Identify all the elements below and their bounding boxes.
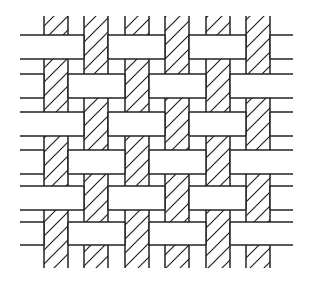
weft-segment xyxy=(149,150,206,174)
weave-pattern-svg xyxy=(0,0,310,284)
weft-segment xyxy=(68,150,125,174)
weft-segment xyxy=(230,150,293,174)
weft-segment xyxy=(189,35,246,59)
weft-segment xyxy=(20,74,44,98)
weft-segment xyxy=(270,35,293,59)
weft-segment xyxy=(108,35,165,59)
weft-segment xyxy=(68,74,125,98)
weft-segment xyxy=(20,222,44,245)
weft-segment xyxy=(270,112,293,136)
weft-segment xyxy=(20,186,84,210)
weft-segment xyxy=(230,222,293,245)
weft-segment xyxy=(20,35,84,59)
weft-segment xyxy=(149,74,206,98)
weft-segment xyxy=(20,150,44,174)
weft-segment xyxy=(68,222,125,245)
weft-segment xyxy=(108,186,165,210)
weave-diagram xyxy=(0,0,310,284)
weft-segment xyxy=(189,186,246,210)
weft-segment xyxy=(230,74,293,98)
weft-segment xyxy=(149,222,206,245)
weft-segment xyxy=(108,112,165,136)
weft-segment xyxy=(20,112,84,136)
weft-segment xyxy=(189,112,246,136)
weft-segment xyxy=(270,186,293,210)
